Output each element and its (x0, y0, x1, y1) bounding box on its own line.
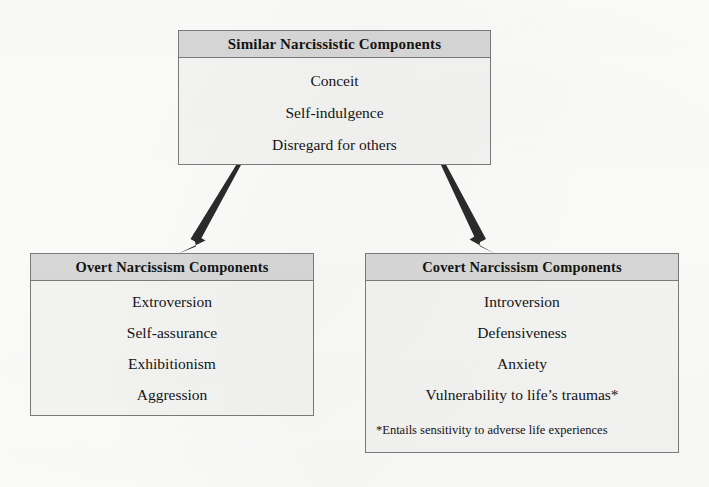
node-similar-item-2: Self-indulgence (285, 104, 383, 122)
node-similar-item-3: Disregard for others (272, 136, 397, 154)
node-similar-item-1: Conceit (310, 72, 358, 90)
diagram-canvas: Similar Narcissistic Components Conceit … (0, 0, 709, 487)
node-covert-header: Covert Narcissism Components (366, 254, 678, 281)
node-overt-item-1: Extroversion (132, 293, 212, 311)
node-similar-header: Similar Narcissistic Components (179, 31, 490, 58)
node-overt-body: Extroversion Self-assurance Exhibitionis… (31, 281, 313, 414)
node-covert-footnote: *Entails sensitivity to adverse life exp… (376, 423, 608, 438)
node-covert-item-2: Defensiveness (477, 324, 567, 342)
node-covert-item-1: Introversion (484, 293, 560, 311)
node-overt-header: Overt Narcissism Components (31, 254, 313, 281)
node-covert-item-4: Vulnerability to life’s traumas* (425, 386, 618, 404)
arrow-similar-to-covert (441, 164, 495, 254)
node-similar-narcissistic-components: Similar Narcissistic Components Conceit … (178, 30, 491, 165)
node-overt-item-3: Exhibitionism (128, 355, 216, 373)
node-covert-item-3: Anxiety (497, 355, 547, 373)
arrow-similar-to-overt (179, 164, 242, 254)
node-overt-narcissism-components: Overt Narcissism Components Extroversion… (30, 253, 314, 416)
node-overt-item-4: Aggression (137, 386, 208, 404)
node-overt-item-2: Self-assurance (127, 324, 217, 342)
node-covert-body: Introversion Defensiveness Anxiety Vulne… (366, 281, 678, 451)
node-covert-narcissism-components: Covert Narcissism Components Introversio… (365, 253, 679, 453)
node-similar-body: Conceit Self-indulgence Disregard for ot… (179, 58, 490, 163)
